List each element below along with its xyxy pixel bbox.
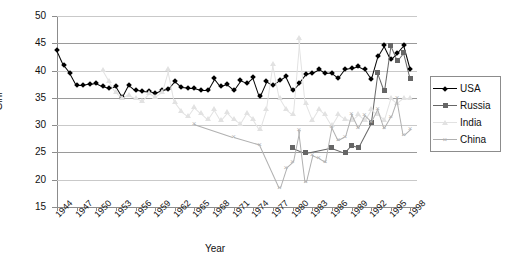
data-point-russia (375, 70, 380, 75)
y-tick-mark (52, 125, 57, 126)
data-point-india (191, 104, 197, 109)
data-point-india (309, 117, 315, 122)
legend-item-russia[interactable]: Russia (433, 97, 498, 114)
data-point-india (100, 67, 106, 72)
data-point-india (113, 89, 119, 94)
data-point-usa (80, 82, 86, 88)
series-line-china (194, 124, 234, 138)
legend-marker: × (442, 136, 447, 144)
data-point-russia (349, 143, 354, 148)
data-point-russia (401, 50, 406, 55)
data-point-india (263, 106, 269, 111)
data-point-india (277, 95, 283, 100)
data-point-china: × (329, 123, 334, 131)
data-point-india (133, 95, 139, 100)
data-point-china: × (323, 158, 328, 166)
y-tick-mark (52, 16, 57, 17)
data-point-usa (74, 82, 80, 88)
legend-item-china[interactable]: × China (433, 131, 498, 148)
data-point-india (146, 90, 152, 95)
data-point-china: × (408, 125, 413, 133)
data-point-china: × (369, 118, 374, 126)
y-tick-label: 15 (20, 202, 46, 212)
data-point-india (244, 110, 250, 115)
data-point-china: × (192, 120, 197, 128)
data-point-usa (67, 70, 73, 76)
data-point-india (185, 113, 191, 118)
data-point-india (250, 116, 256, 121)
data-point-india (322, 111, 328, 116)
legend-marker (442, 120, 448, 125)
y-tick-mark (52, 43, 57, 44)
gridline-y-20 (57, 180, 417, 181)
data-point-india (119, 95, 125, 100)
usa-marker-icon (433, 83, 457, 94)
data-point-india (231, 116, 237, 121)
data-point-india (218, 117, 224, 122)
india-marker-icon (433, 117, 457, 128)
data-point-usa (179, 85, 185, 91)
data-point-china: × (388, 113, 393, 121)
series-line-china (233, 137, 259, 146)
gini-line-chart: Gini Year ×××××××××××××××××××××××× USA R… (0, 0, 516, 269)
y-tick-mark (52, 98, 57, 99)
y-tick-label: 40 (20, 66, 46, 76)
data-point-russia (388, 43, 393, 48)
y-tick-mark (52, 152, 57, 153)
data-point-india (178, 108, 184, 113)
y-tick-label: 20 (20, 175, 46, 185)
series-line-china (259, 145, 280, 189)
data-point-russia (329, 145, 334, 150)
y-tick-label: 30 (20, 120, 46, 130)
data-point-russia (382, 88, 387, 93)
legend-label-usa: USA (457, 83, 481, 94)
data-point-india (342, 116, 348, 121)
data-point-china: × (395, 94, 400, 102)
china-marker-icon: × (433, 134, 457, 145)
data-point-india (388, 95, 394, 100)
gridline-y-50 (57, 16, 417, 17)
data-point-russia (343, 150, 348, 155)
data-point-india (139, 98, 145, 103)
data-point-russia (395, 58, 400, 63)
data-point-china: × (297, 126, 302, 134)
data-point-usa (205, 87, 211, 93)
legend-marker (442, 86, 448, 92)
data-point-india (335, 111, 341, 116)
data-point-russia (356, 145, 361, 150)
data-point-china: × (362, 111, 367, 119)
data-point-india (152, 94, 158, 99)
data-point-usa (185, 85, 191, 91)
plot-area: ×××××××××××××××××××××××× (57, 16, 417, 207)
data-point-india (257, 126, 263, 131)
data-point-usa (244, 80, 250, 86)
data-point-china: × (349, 110, 354, 118)
legend-marker (443, 103, 448, 108)
data-point-usa (251, 74, 257, 80)
data-point-usa (218, 84, 224, 90)
chart-legend: USA Russia India × China (430, 76, 501, 152)
x-axis-title: Year (0, 243, 430, 254)
data-point-usa (133, 87, 139, 93)
data-point-china: × (382, 124, 387, 132)
y-tick-label: 50 (20, 11, 46, 21)
legend-item-usa[interactable]: USA (433, 80, 498, 97)
data-point-india (368, 106, 374, 111)
data-point-usa (54, 48, 60, 54)
y-axis-title: Gini (0, 72, 4, 132)
gridline-y-45 (57, 43, 417, 44)
data-point-china: × (303, 178, 308, 186)
legend-item-india[interactable]: India (433, 114, 498, 131)
data-point-india (355, 111, 361, 116)
legend-label-india: India (457, 117, 482, 128)
data-point-usa (192, 85, 198, 91)
series-line-china (298, 130, 306, 183)
data-point-russia (290, 145, 295, 150)
data-point-india (270, 61, 276, 66)
data-point-india (126, 92, 132, 97)
y-tick-label: 35 (20, 93, 46, 103)
data-point-india (303, 100, 309, 105)
data-point-india (211, 106, 217, 111)
gridline-y-35 (57, 98, 417, 99)
data-point-india (224, 109, 230, 114)
